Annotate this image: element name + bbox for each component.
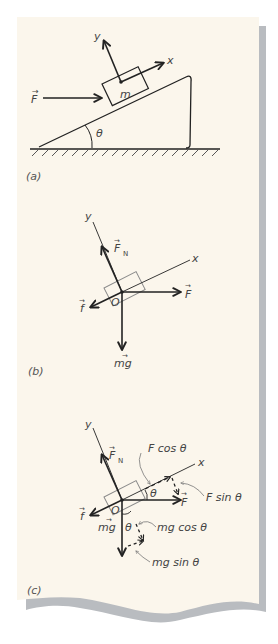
- weight-vector-mark: →: [122, 352, 128, 360]
- angle-label: θ: [96, 127, 103, 140]
- y-axis-label: y: [84, 210, 92, 223]
- f-cos-label: F cos θ: [148, 442, 187, 455]
- paper: [17, 17, 259, 613]
- angle-bottom-label: θ: [125, 521, 132, 534]
- normal-force-subscript: N: [118, 457, 123, 465]
- mg-cos-label: mg cos θ: [157, 521, 207, 534]
- angle-top-label: θ: [150, 487, 157, 500]
- mass-label: m: [120, 88, 131, 101]
- x-axis-label: x: [191, 252, 199, 265]
- y-axis-label: y: [84, 418, 92, 431]
- x-axis-label: x: [197, 456, 205, 469]
- figure: θ m y x F → (a) y x F N →: [0, 0, 278, 644]
- x-axis-label: x: [166, 54, 174, 67]
- normal-force-subscript: N: [123, 250, 128, 258]
- origin-label: O: [111, 504, 120, 517]
- force-vector-mark: →: [32, 87, 39, 96]
- friction-vector-mark: →: [79, 505, 85, 513]
- normal-force-vector-mark: →: [109, 444, 115, 452]
- y-axis-label: y: [93, 30, 101, 43]
- friction-vector-mark: →: [79, 297, 85, 305]
- applied-force-vector-mark: →: [185, 282, 191, 290]
- applied-force-vector-mark: →: [181, 490, 187, 498]
- physics-diagram: θ m y x F → (a) y x F N →: [0, 0, 278, 644]
- panel-c-label: (c): [27, 584, 42, 597]
- panel-a-label: (a): [26, 170, 41, 183]
- f-sin-label: F sin θ: [206, 491, 242, 504]
- panel-b-label: (b): [28, 365, 44, 378]
- weight-vector-mark: →: [106, 516, 112, 524]
- origin-label: O: [111, 296, 120, 309]
- mg-sin-label: mg sin θ: [152, 556, 199, 569]
- normal-force-vector-mark: →: [114, 237, 120, 245]
